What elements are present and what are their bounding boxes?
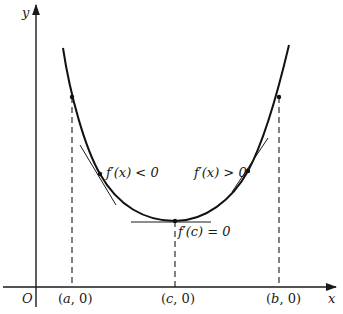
- point-a: [70, 95, 74, 99]
- tick-label-a: (a, 0): [58, 291, 92, 306]
- tick-label-c: (c, 0): [161, 291, 195, 306]
- origin-label: O: [22, 291, 33, 306]
- point-left-tangent: [98, 172, 102, 176]
- annotation-increasing: f′(x) > 0: [193, 165, 247, 180]
- convex-function-diagram: y x O (a, 0) (c, 0) (b, 0) f′(x) < 0 f′(…: [0, 0, 343, 314]
- point-min: [173, 219, 177, 223]
- point-b: [277, 95, 281, 99]
- annotation-decreasing: f′(x) < 0: [105, 165, 159, 180]
- tick-label-b: (b, 0): [266, 291, 301, 306]
- annotation-minimum: f′(c) = 0: [177, 224, 231, 239]
- x-axis-label: x: [328, 291, 336, 306]
- y-axis-label: y: [21, 5, 30, 20]
- convex-curve: [63, 45, 289, 221]
